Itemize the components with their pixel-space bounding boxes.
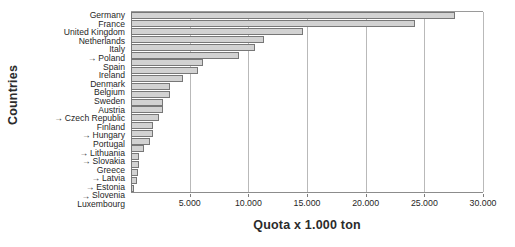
bar	[131, 44, 255, 51]
bar	[131, 106, 163, 113]
bar	[131, 169, 138, 176]
arrow-right-icon: →	[88, 54, 97, 63]
category-label: Luxembourg	[77, 200, 125, 209]
bar-row	[131, 129, 483, 137]
bar-row	[131, 59, 483, 67]
bar	[131, 145, 144, 152]
bar	[131, 12, 455, 19]
bar-row	[131, 114, 483, 122]
category-label-column: GermanyFranceUnited KingdomNetherlandsIt…	[24, 11, 128, 193]
bar-row	[131, 12, 483, 20]
bar-layer	[131, 12, 483, 192]
bar-row	[131, 184, 483, 192]
category-label-row: Luxembourg	[24, 200, 128, 209]
y-axis-title-text: Countries	[6, 65, 20, 125]
bar-row	[131, 106, 483, 114]
bar	[131, 52, 239, 59]
x-tick-label: 30.000	[470, 198, 497, 208]
bar-row	[131, 122, 483, 130]
x-tick-label: 10.000	[235, 198, 262, 208]
bar-row	[131, 90, 483, 98]
bar	[131, 67, 198, 74]
bar	[131, 161, 139, 168]
bar	[131, 130, 153, 137]
bar-row	[131, 20, 483, 28]
bar-row	[131, 43, 483, 51]
arrow-right-icon: →	[82, 131, 91, 140]
bar-row	[131, 82, 483, 90]
x-axis-ticks: 5.00010.00015.00020.00025.00030.000	[131, 194, 483, 210]
y-axis-title: Countries	[2, 0, 24, 190]
gridline	[483, 12, 484, 192]
x-tick-label: 20.000	[352, 198, 379, 208]
bar-row	[131, 161, 483, 169]
bar-row	[131, 176, 483, 184]
x-tick-label: 15.000	[294, 198, 321, 208]
x-tick-mark	[424, 194, 425, 197]
chart-screenshot: Countries GermanyFranceUnited KingdomNet…	[0, 0, 515, 247]
arrow-right-icon: →	[82, 157, 91, 166]
bar	[131, 75, 183, 82]
arrow-right-icon: →	[54, 114, 63, 123]
plot-area	[131, 11, 483, 193]
x-tick-mark	[190, 194, 191, 197]
bar-row	[131, 169, 483, 177]
x-tick-mark	[307, 194, 308, 197]
bar-row	[131, 75, 483, 83]
bar-row	[131, 145, 483, 153]
bar	[131, 20, 415, 27]
bar-row	[131, 51, 483, 59]
bar-row	[131, 153, 483, 161]
x-axis-title: Quota x 1.000 ton	[131, 218, 483, 232]
bar	[131, 153, 139, 160]
bar	[131, 114, 159, 121]
bar	[131, 36, 264, 43]
bar-row	[131, 35, 483, 43]
x-tick-label: 5.000	[179, 198, 201, 208]
bar	[131, 185, 134, 192]
bar	[131, 83, 170, 90]
x-tick-mark	[248, 194, 249, 197]
x-tick-mark	[366, 194, 367, 197]
bar	[131, 59, 203, 66]
bar-row	[131, 28, 483, 36]
bar	[131, 138, 150, 145]
bar	[131, 177, 137, 184]
x-tick-label: 25.000	[411, 198, 438, 208]
bar	[131, 122, 153, 129]
bar	[131, 91, 170, 98]
x-tick-mark	[483, 194, 484, 197]
bar-row	[131, 67, 483, 75]
bar	[131, 99, 163, 106]
bar-row	[131, 98, 483, 106]
bar	[131, 28, 303, 35]
bar-row	[131, 137, 483, 145]
